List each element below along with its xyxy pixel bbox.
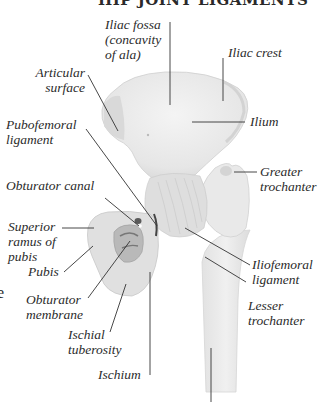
label-articular-surface: Articular surface xyxy=(30,65,85,95)
label-greater-trochanter: Greater trochanter xyxy=(260,164,317,194)
label-superior-ramus-of-pubis: Superior ramus of pubis xyxy=(8,219,56,264)
label-line: Ischial xyxy=(68,327,122,342)
label-line: Ischium xyxy=(98,367,141,382)
label-pubis: Pubis xyxy=(28,264,59,279)
label-iliac-crest: Iliac crest xyxy=(228,45,282,60)
label-iliac-fossa: Iliac fossa (concavity of ala) xyxy=(105,17,161,62)
label-obturator-membrane: Obturator membrane xyxy=(26,292,83,322)
hip-bone-illustration xyxy=(0,0,323,402)
label-ischial-tuberosity: Ischial tuberosity xyxy=(68,327,122,357)
label-line: membrane xyxy=(26,307,83,322)
edge-text-fragment: e xyxy=(0,285,4,300)
label-ilium: Ilium xyxy=(250,114,279,129)
label-line: Articular xyxy=(30,65,85,80)
label-iliofemoral-ligament: Iliofemoral ligament xyxy=(252,257,313,287)
label-line: surface xyxy=(30,80,85,95)
label-line: Lesser xyxy=(248,298,305,313)
label-line: Iliac crest xyxy=(228,45,282,60)
femur-shaft xyxy=(202,230,250,392)
label-lesser-trochanter: Lesser trochanter xyxy=(248,298,305,328)
label-line: pubis xyxy=(8,249,56,264)
label-line: ramus of xyxy=(8,234,56,249)
label-line: Superior xyxy=(8,219,56,234)
label-line: Iliofemoral xyxy=(252,257,313,272)
hip-joint-diagram: HIP JOINT LIGAMENTS Iliac fossa (concavi… xyxy=(0,0,323,402)
label-line: of ala) xyxy=(105,47,161,62)
label-pubofemoral-ligament: Pubofemoral ligament xyxy=(6,117,77,147)
label-line: Iliac fossa xyxy=(105,17,161,32)
label-line: ligament xyxy=(6,132,77,147)
label-obturator-canal: Obturator canal xyxy=(6,178,94,193)
label-line: trochanter xyxy=(248,313,305,328)
label-line: Pubis xyxy=(28,264,59,279)
label-ischium: Ischium xyxy=(98,367,141,382)
label-line: Greater xyxy=(260,164,317,179)
diagram-title: HIP JOINT LIGAMENTS xyxy=(98,0,288,9)
label-line: trochanter xyxy=(260,179,317,194)
label-line: ligament xyxy=(252,272,313,287)
label-line: Obturator xyxy=(26,292,83,307)
label-line: (concavity xyxy=(105,32,161,47)
label-line: Ilium xyxy=(250,114,279,129)
label-line: Obturator canal xyxy=(6,178,94,193)
label-line: tuberosity xyxy=(68,342,122,357)
label-line: Pubofemoral xyxy=(6,117,77,132)
